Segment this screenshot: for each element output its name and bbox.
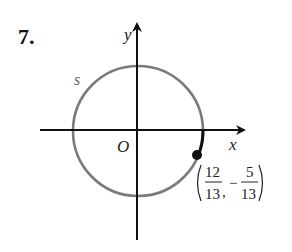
- problem-number: 7.: [18, 24, 35, 49]
- terminal-point: [192, 150, 202, 160]
- x-denominator: 13: [205, 186, 220, 202]
- x-numerator: 12: [205, 164, 220, 180]
- y-denominator: 13: [241, 186, 256, 202]
- comma: ,: [222, 184, 226, 200]
- y-numerator: 5: [246, 164, 254, 180]
- point-coordinates: 12 13 , − 5 13: [198, 164, 263, 202]
- unit-circle-diagram: 7. y x O s 12 13 , − 5 13: [0, 0, 292, 252]
- arc-label: s: [74, 71, 80, 88]
- minus-sign: −: [229, 175, 237, 191]
- y-axis-label: y: [122, 25, 132, 44]
- left-paren: [198, 165, 202, 201]
- right-paren: [259, 165, 263, 201]
- origin-label: O: [117, 137, 129, 156]
- x-axis-label: x: [228, 135, 237, 154]
